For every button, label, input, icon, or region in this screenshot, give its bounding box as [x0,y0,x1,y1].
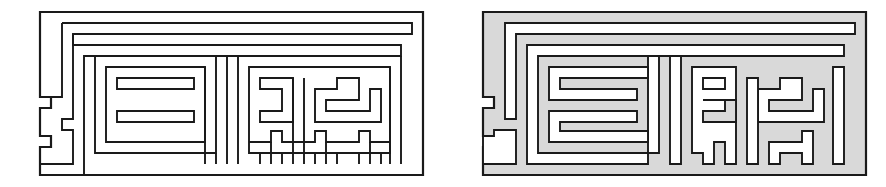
labyrinth-corridor-left [40,12,423,175]
labyrinth-figure-pair: Line drawing of a rectangular meander la… [0,0,886,187]
labyrinth-panel-right: The same rectangular meander labyrinth w… [443,0,886,187]
labyrinth-corridor-right [483,12,866,175]
labyrinth-svg-right: The same rectangular meander labyrinth w… [443,0,886,187]
labyrinth-panel-left: Line drawing of a rectangular meander la… [0,0,443,187]
labyrinth-svg-left: Line drawing of a rectangular meander la… [0,0,443,187]
